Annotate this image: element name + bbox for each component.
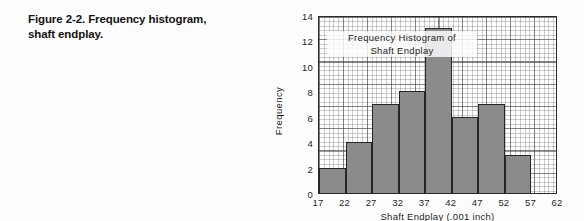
figure-caption: Figure 2-2. Frequency histogram, shaft e… (28, 12, 263, 41)
y-axis-tick-12: 12 (287, 36, 313, 47)
plot-title-line-2: Shaft Endplay (327, 44, 477, 57)
x-axis-tick-27: 27 (356, 197, 386, 208)
plot-title: Frequency Histogram of Shaft Endplay (327, 31, 477, 57)
figure-caption-line-2: shaft endplay. (28, 27, 263, 42)
histogram-bar-22-27 (346, 142, 373, 193)
x-axis-tick-47: 47 (462, 197, 492, 208)
y-axis-tick-labels: 02468101214 (287, 8, 313, 194)
x-axis-tick-32: 32 (383, 197, 413, 208)
y-axis-tick-6: 6 (287, 112, 313, 123)
y-axis-title: Frequency (273, 66, 284, 156)
x-axis-tick-62: 62 (542, 197, 572, 208)
histogram-bar-42-47 (452, 117, 479, 193)
plot-title-line-1: Frequency Histogram of (327, 31, 477, 44)
y-axis-tick-4: 4 (287, 138, 313, 149)
histogram-bar-17-22 (319, 168, 346, 193)
figure-caption-line-1: Figure 2-2. Frequency histogram, (28, 12, 263, 27)
x-axis-tick-22: 22 (330, 197, 360, 208)
x-axis-tick-52: 52 (489, 197, 519, 208)
y-axis-tick-14: 14 (287, 11, 313, 22)
histogram-bar-52-57 (505, 155, 532, 193)
x-axis-tick-57: 57 (515, 197, 545, 208)
x-axis-tick-labels: 17222732374247525762 (318, 197, 557, 211)
y-axis-tick-10: 10 (287, 61, 313, 72)
plot-area: Frequency Histogram of Shaft Endplay (318, 16, 557, 194)
x-axis-tick-17: 17 (303, 197, 333, 208)
histogram-bar-32-37 (399, 91, 426, 193)
histogram-bar-27-32 (372, 104, 399, 193)
frequency-histogram-figure: Frequency 02468101214 Frequency Histogra… (277, 8, 577, 218)
histogram-bar-47-52 (478, 104, 505, 193)
x-axis-title: Shaft Endplay (.001 inch) (318, 211, 557, 221)
x-axis-tick-42: 42 (436, 197, 466, 208)
y-axis-tick-2: 2 (287, 163, 313, 174)
y-axis-tick-8: 8 (287, 87, 313, 98)
x-axis-tick-37: 37 (409, 197, 439, 208)
